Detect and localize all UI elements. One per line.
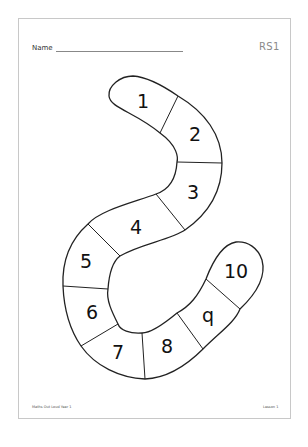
square-2: 2	[189, 123, 201, 145]
square-9: q	[202, 304, 214, 326]
number-snake: 1 2 3 4 5 6 7 8 q 10	[0, 0, 308, 447]
square-4: 4	[130, 216, 142, 238]
square-5: 5	[80, 250, 92, 272]
footer-lesson: Lesson 1	[263, 405, 278, 409]
snake-outline	[63, 76, 263, 379]
square-1: 1	[137, 90, 149, 112]
square-3: 3	[187, 181, 199, 203]
square-8: 8	[161, 335, 173, 357]
square-7: 7	[112, 341, 124, 363]
square-10: 10	[224, 260, 248, 282]
square-6: 6	[86, 301, 98, 323]
footer-series: Maths Out Loud Year 1	[32, 405, 71, 409]
